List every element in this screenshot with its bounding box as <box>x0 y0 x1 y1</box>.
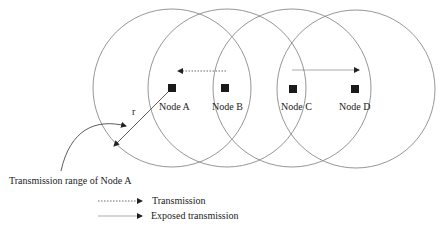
node-b-square <box>221 84 229 92</box>
node-c-label: Node C <box>281 102 312 112</box>
node-a-square <box>168 84 176 92</box>
network-diagram <box>0 0 446 235</box>
legend-transmission-label: Transmission <box>152 196 206 206</box>
node-d-square <box>351 85 359 93</box>
radius-label: r <box>132 107 135 117</box>
node-c-square <box>289 85 297 93</box>
node-b-label: Node B <box>212 102 243 112</box>
node-a-label: Node A <box>159 102 190 112</box>
node-d-label: Node D <box>339 102 370 112</box>
legend-exposed-label: Exposed transmission <box>151 211 239 221</box>
range-annotation-label: Transmission range of Node A <box>9 176 131 186</box>
range-annotation-pointer <box>61 124 126 171</box>
